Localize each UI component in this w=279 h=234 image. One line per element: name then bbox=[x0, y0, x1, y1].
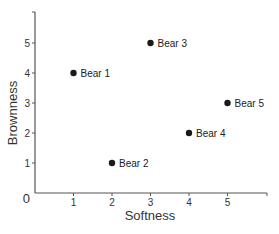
x-tick-label: 3 bbox=[148, 197, 154, 208]
data-point: Bear 1 bbox=[70, 68, 110, 79]
point-marker bbox=[224, 100, 230, 106]
data-point: Bear 4 bbox=[186, 128, 226, 139]
point-label: Bear 3 bbox=[158, 38, 188, 49]
x-axis-title: Softness bbox=[125, 208, 176, 223]
point-marker bbox=[70, 70, 76, 76]
axis-ticks: 1234512345 bbox=[24, 38, 230, 209]
point-marker bbox=[147, 40, 153, 46]
y-tick-label: 4 bbox=[24, 68, 30, 79]
point-label: Bear 4 bbox=[196, 128, 226, 139]
x-tick-label: 2 bbox=[109, 197, 115, 208]
point-label: Bear 5 bbox=[235, 98, 265, 109]
y-axis-title: Brownness bbox=[5, 80, 20, 145]
y-tick-label: 1 bbox=[24, 158, 30, 169]
point-label: Bear 1 bbox=[81, 68, 111, 79]
x-tick-label: 5 bbox=[225, 197, 231, 208]
x-tick-label: 4 bbox=[186, 197, 192, 208]
y-tick-label: 2 bbox=[24, 128, 30, 139]
origin-label: 0 bbox=[23, 191, 30, 206]
scatter-chart: 1234512345 Bear 1Bear 2Bear 3Bear 4Bear … bbox=[0, 0, 279, 234]
axes bbox=[32, 12, 267, 196]
point-label: Bear 2 bbox=[119, 158, 149, 169]
data-point: Bear 5 bbox=[224, 98, 264, 109]
point-marker bbox=[109, 160, 115, 166]
x-tick-label: 1 bbox=[71, 197, 77, 208]
data-points: Bear 1Bear 2Bear 3Bear 4Bear 5 bbox=[70, 38, 264, 169]
data-point: Bear 2 bbox=[109, 158, 149, 169]
y-tick-label: 5 bbox=[24, 38, 30, 49]
y-tick-label: 3 bbox=[24, 98, 30, 109]
data-point: Bear 3 bbox=[147, 38, 187, 49]
point-marker bbox=[186, 130, 192, 136]
